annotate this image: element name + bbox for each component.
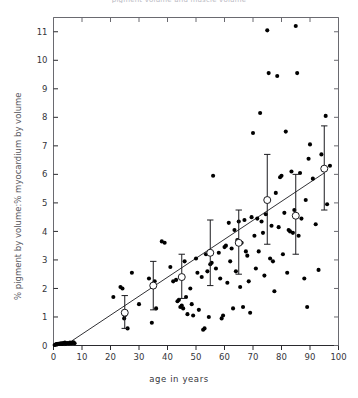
data-point (247, 279, 251, 283)
data-point (328, 164, 332, 168)
y-axis-tick-label: 0 (42, 341, 47, 351)
y-axis-tick-label: 7 (42, 141, 47, 151)
data-point (73, 341, 77, 345)
data-point (183, 259, 187, 263)
mean-marker (292, 212, 299, 219)
mean-marker (121, 309, 128, 316)
data-point (258, 111, 262, 115)
data-point (317, 268, 321, 272)
data-point (295, 71, 299, 75)
data-point (252, 234, 256, 238)
data-point (197, 308, 201, 312)
plot-canvas: 010203040506070809010001234567891011 (0, 0, 358, 398)
data-point (245, 254, 249, 258)
data-point (255, 217, 259, 221)
x-axis-tick-label: 50 (191, 352, 202, 362)
x-axis-tick-label: 100 (330, 352, 346, 362)
x-axis-tick-label: 30 (134, 352, 145, 362)
data-point (185, 312, 189, 316)
data-point (227, 221, 231, 225)
data-point (163, 241, 167, 245)
data-point (248, 311, 252, 315)
data-point (302, 276, 306, 280)
data-point (244, 249, 248, 253)
data-point (190, 302, 194, 306)
mean-marker (235, 239, 242, 246)
x-axis-tick-label: 70 (248, 352, 259, 362)
data-point (305, 305, 309, 309)
data-point (230, 246, 234, 250)
data-point (314, 222, 318, 226)
mean-marker (264, 197, 271, 204)
x-axis-tick-label: 60 (219, 352, 230, 362)
data-point (262, 274, 266, 278)
data-point (289, 169, 293, 173)
data-point (311, 177, 315, 181)
data-point (284, 130, 288, 134)
data-point (265, 28, 269, 32)
data-point (231, 306, 235, 310)
data-point (203, 326, 207, 330)
mean-marker (150, 282, 157, 289)
data-point (225, 281, 229, 285)
data-point (277, 225, 281, 229)
x-axis-tick-label: 40 (162, 352, 173, 362)
data-point (257, 249, 261, 253)
data-point (275, 74, 279, 78)
x-axis-tick-label: 80 (276, 352, 287, 362)
data-point (241, 305, 245, 309)
data-point (238, 285, 242, 289)
data-point (267, 71, 271, 75)
data-point (137, 302, 141, 306)
data-point (217, 251, 221, 255)
data-point (307, 157, 311, 161)
data-point (130, 271, 134, 275)
data-point (168, 265, 172, 269)
data-point (324, 114, 328, 118)
data-point (214, 266, 218, 270)
data-point (211, 174, 215, 178)
y-axis-tick-label: 4 (42, 227, 47, 237)
data-point (282, 211, 286, 215)
data-point (254, 266, 258, 270)
figure-scatter-pigment-vs-age: pigment volume and muscle volume 0102030… (0, 0, 358, 398)
data-point (200, 275, 204, 279)
x-axis-label: age in years (0, 374, 358, 384)
data-point (281, 252, 285, 256)
y-axis-tick-label: 5 (42, 198, 47, 208)
data-point (218, 276, 222, 280)
data-point (269, 224, 273, 228)
data-point (308, 142, 312, 146)
y-axis-tick-label: 1 (42, 312, 47, 322)
y-axis-label: % pigment by volume:% myocardium by volu… (13, 92, 23, 300)
data-point (285, 271, 289, 275)
data-point (319, 152, 323, 156)
data-point (325, 202, 329, 206)
data-point (261, 231, 265, 235)
data-point (299, 217, 303, 221)
data-point (181, 306, 185, 310)
data-point (195, 271, 199, 275)
data-point (304, 198, 308, 202)
data-point (279, 174, 283, 178)
data-point (221, 314, 225, 318)
data-point (207, 315, 211, 319)
data-point (228, 259, 232, 263)
data-point (297, 234, 301, 238)
data-point (242, 218, 246, 222)
data-point (111, 295, 115, 299)
y-axis-tick-label: 2 (42, 284, 47, 294)
data-point (274, 191, 278, 195)
data-point (271, 259, 275, 263)
x-axis-tick-label: 20 (105, 352, 116, 362)
data-point (272, 289, 276, 293)
y-axis-tick-label: 8 (42, 112, 47, 122)
y-axis-tick-label: 3 (42, 255, 47, 265)
mean-marker (178, 274, 185, 281)
y-axis-tick-label: 10 (37, 55, 48, 65)
y-axis-tick-label: 9 (42, 84, 47, 94)
mean-marker (207, 249, 214, 256)
y-axis-tick-label: 11 (37, 27, 48, 37)
data-point (120, 286, 124, 290)
data-point (250, 215, 254, 219)
